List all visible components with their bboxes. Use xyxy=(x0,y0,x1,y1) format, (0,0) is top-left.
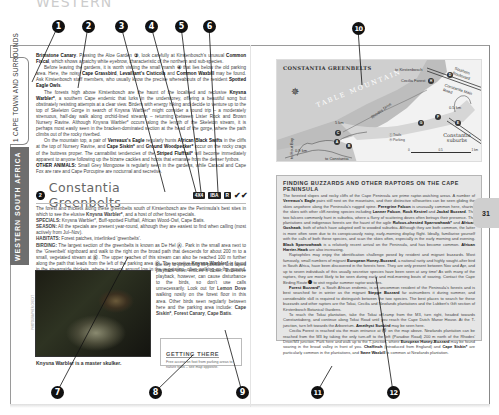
site-text-continued: the key to pinpointing its position, and… xyxy=(156,262,246,317)
paragraph: Forest Buzzard*, a South African endemic… xyxy=(283,285,475,312)
callout-8: 8 xyxy=(149,386,162,399)
map-pin-h: H xyxy=(428,78,434,84)
callout-11: 11 xyxy=(311,386,324,399)
paragraph: Raptophiles may enjoy the identification… xyxy=(283,252,475,284)
callout-6: 6 xyxy=(203,20,216,33)
map-title: CONSTANTIA GREENBELTS xyxy=(283,65,371,71)
chapter-tab[interactable]: 1 CAPE TOWN AND SURROUNDS xyxy=(10,57,29,145)
paragraph: Before leaving the gardens, it is worth … xyxy=(36,65,246,89)
legend-parking: Ⓟ Parking xyxy=(389,138,405,143)
callout-7: 7 xyxy=(51,386,64,399)
chapter-tab-label: 1 CAPE TOWN AND SURROUNDS xyxy=(12,33,19,142)
map-pin-f: F xyxy=(435,114,441,120)
getting-there-box: GETTING THERE Free access on foot from p… xyxy=(160,338,242,366)
paragraph: The forested slopes and rocky cliffs of … xyxy=(283,193,475,252)
site-heading: 2 Constantia Greenbelts 4X4 IBA R ✔✔ xyxy=(36,188,248,202)
site-badges: 4X4 IBA R ✔✔ xyxy=(193,191,248,200)
map-suburb-label: Constantia suburbs xyxy=(437,133,477,144)
map-label-to-kirstenbosch: to Kirstenbosch xyxy=(395,67,423,72)
map-label-dist-5km: 5 km xyxy=(335,120,344,125)
callout-12: 12 xyxy=(387,386,400,399)
map-label-dist-09km: 0.9 km xyxy=(295,148,307,153)
callout-4: 4 xyxy=(145,20,158,33)
map-pin-b: B xyxy=(346,143,352,149)
map-pin-a: A xyxy=(334,139,340,145)
paragraph: SEASON: All the specials are present yea… xyxy=(36,224,246,236)
map-pin-c: C xyxy=(335,130,341,136)
photo-caption: Knysna Warbler is a master skulker. xyxy=(36,360,121,366)
spread-heading-fragment: WESTERN xyxy=(36,0,112,10)
heading-rule xyxy=(36,203,246,204)
site-map: CONSTANTIA GREENBELTS ✵ TABLE MOUNTAIN t… xyxy=(276,59,482,162)
callout-10: 10 xyxy=(352,22,365,35)
intro-text: Brimstone Canary. Passing the Aloe Garde… xyxy=(36,53,246,175)
badge-r: R xyxy=(224,192,231,199)
knysna-warbler-photo xyxy=(35,270,151,357)
getting-there-title: GETTING THERE xyxy=(166,351,219,358)
map-legend: Ⓣ Trails Ⓟ Parking xyxy=(389,133,405,143)
paragraph: Cecilia Forest is reached via the main e… xyxy=(283,328,475,355)
map-label-dist-05km: 0.5 km xyxy=(449,105,461,110)
paragraph: OTHER ANIMALS: Small Grey Mongoose is re… xyxy=(36,163,246,175)
photo-credit: PHOTOGRAPHER CREDIT xyxy=(31,295,35,330)
callout-5: 5 xyxy=(175,20,188,33)
map-label-to-constantia: to Constantia xyxy=(325,156,349,161)
map-pin-e: E xyxy=(455,120,461,126)
map-scale-labels: 00.51 km xyxy=(408,148,478,152)
paragraph: The forest and thickets along these gree… xyxy=(36,206,246,218)
paragraph: Brimstone Canary. Passing the Aloe Garde… xyxy=(36,53,246,65)
paragraph: On the mountain top, a pair of Verreaux'… xyxy=(36,138,246,162)
map-pin-g: G xyxy=(418,120,424,126)
callout-3: 3 xyxy=(115,20,128,33)
getting-there-body: Free access on foot from parking areas t… xyxy=(166,360,236,369)
raptor-box-body: The forested slopes and rocky cliffs of … xyxy=(283,193,475,355)
site-number-badge: 2 xyxy=(36,191,45,200)
map-label-to-hout-bay: to Hout Bay xyxy=(289,138,294,159)
paragraph: To reach the Tokai plantation, take the … xyxy=(283,312,475,328)
rating-ticks-icon: ✔✔ xyxy=(234,191,248,200)
callout-9: 9 xyxy=(236,386,249,399)
callout-2: 2 xyxy=(82,20,95,33)
map-label-cecilia-forest: Cecilia Forest xyxy=(401,78,425,83)
page-number-tab: 31 xyxy=(473,198,499,228)
region-tab[interactable]: WESTERN SOUTH AFRICA xyxy=(10,147,29,265)
badge-iba: IBA xyxy=(208,192,220,199)
map-pin-d: D xyxy=(447,72,453,78)
map-scale-bar xyxy=(411,152,471,153)
raptor-info-box: FINDING BUZZARDS AND OTHER RAPTORS ON TH… xyxy=(276,175,482,341)
compass-icon: ✵ xyxy=(291,86,299,97)
region-tab-label: WESTERN SOUTH AFRICA xyxy=(14,151,21,261)
badge-4x4: 4X4 xyxy=(193,192,206,199)
callout-1: 1 xyxy=(52,20,65,33)
paragraph: The forests high above Kirstenbosch are … xyxy=(36,90,246,139)
raptor-box-title: FINDING BUZZARDS AND OTHER RAPTORS ON TH… xyxy=(283,180,475,192)
book-spine xyxy=(250,45,251,407)
